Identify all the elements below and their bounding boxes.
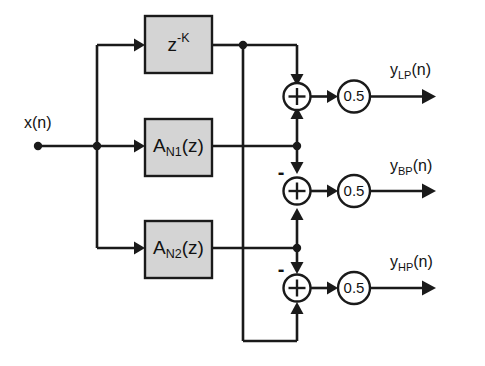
gain-bp-label: 0.5 bbox=[344, 182, 365, 199]
arrowhead-output-lp bbox=[422, 89, 436, 104]
arrowhead-into-adder-hp-bottom bbox=[291, 302, 304, 314]
arrowhead-into-gain-bp bbox=[327, 185, 338, 198]
block-delay[interactable]: z-K bbox=[145, 16, 212, 73]
gain-lp[interactable]: 0.5 bbox=[338, 81, 370, 113]
adder-lp[interactable] bbox=[284, 83, 311, 110]
arrowhead-into-allpass1 bbox=[134, 140, 145, 153]
arrowhead-output-hp bbox=[422, 281, 436, 296]
block-input-wires-group bbox=[97, 39, 145, 255]
arrowhead-into-allpass2 bbox=[134, 242, 145, 255]
block-diagram-canvas: z-K AN1(z) AN2(z) bbox=[0, 0, 485, 366]
gain-hp-label: 0.5 bbox=[344, 279, 365, 296]
arrowhead-output-bp bbox=[422, 184, 436, 199]
signal-labels-group: x(n) yLP(n) yBP(n) yHP(n) bbox=[24, 61, 433, 273]
gain-bp[interactable]: 0.5 bbox=[338, 175, 370, 207]
gain-blocks-group: 0.5 0.5 0.5 bbox=[338, 81, 370, 305]
arrowhead-into-delay bbox=[134, 39, 145, 52]
allpass2-output-routing-group bbox=[212, 208, 304, 274]
input-label: x(n) bbox=[24, 114, 52, 131]
block-allpass2[interactable]: AN2(z) bbox=[145, 221, 212, 278]
block-allpass1[interactable]: AN1(z) bbox=[145, 119, 212, 176]
gain-hp[interactable]: 0.5 bbox=[338, 272, 370, 304]
arrowhead-into-gain-lp bbox=[327, 90, 338, 103]
arrowhead-into-adder-bp-bottom bbox=[291, 208, 304, 220]
output-bp-label: yBP(n) bbox=[390, 157, 432, 177]
block-diagram-svg: z-K AN1(z) AN2(z) bbox=[0, 0, 485, 366]
output-hp-label: yHP(n) bbox=[390, 253, 433, 273]
adder-hp-minus-sign: - bbox=[278, 258, 285, 280]
arrowhead-into-adder-hp-top bbox=[291, 262, 304, 274]
processing-blocks-group: z-K AN1(z) AN2(z) bbox=[145, 16, 212, 278]
arrowhead-into-adder-bp-top bbox=[291, 162, 304, 174]
gain-lp-label: 0.5 bbox=[344, 87, 365, 104]
input-signal-group bbox=[34, 45, 101, 248]
allpass1-output-routing-group bbox=[212, 107, 304, 174]
output-lp-label: yLP(n) bbox=[390, 61, 431, 81]
arrowhead-into-gain-hp bbox=[327, 282, 338, 295]
adder-bp-minus-sign: - bbox=[278, 161, 285, 183]
adder-to-gain-wires-group bbox=[311, 90, 339, 295]
